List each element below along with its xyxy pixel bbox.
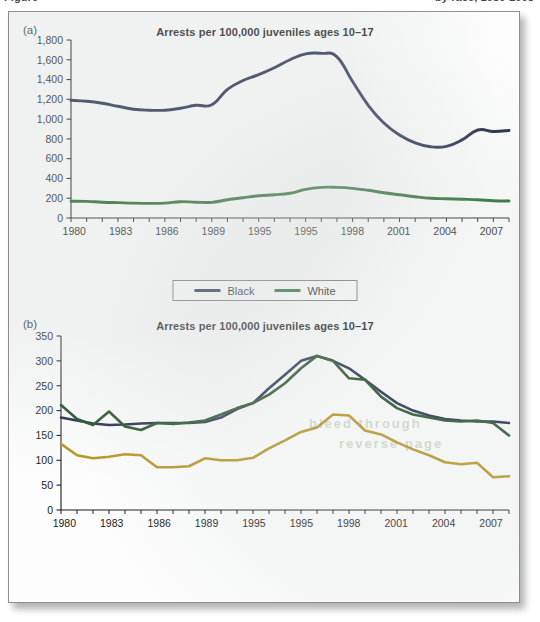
svg-text:1,000: 1,000 — [37, 113, 63, 125]
panel-b-svg: 0501001502002503003501980198319861989199… — [9, 312, 521, 560]
legend-label: Black — [227, 285, 254, 297]
panel-a-plot: 02004006008001,0001,2001,4001,6001,80019… — [9, 18, 521, 258]
svg-text:1980: 1980 — [63, 225, 87, 237]
legend-item-white[interactable]: White — [274, 285, 335, 297]
svg-text:1,400: 1,400 — [37, 73, 63, 85]
svg-text:1,200: 1,200 — [37, 93, 63, 105]
clipped-header-left: Figure — [4, 0, 38, 3]
clipped-header-right: by race, 1980-2008 — [435, 0, 534, 3]
svg-text:1989: 1989 — [195, 517, 219, 529]
svg-text:2001: 2001 — [384, 517, 408, 529]
legend-swatch-icon — [194, 289, 220, 292]
chart-panel-b: (b) Arrests per 100,000 juveniles ages 1… — [9, 312, 521, 604]
svg-text:50: 50 — [41, 479, 53, 491]
svg-text:2004: 2004 — [433, 225, 457, 237]
svg-text:1989: 1989 — [202, 225, 226, 237]
clipped-page-header: Figure by race, 1980-2008 — [0, 0, 540, 5]
svg-text:2001: 2001 — [387, 225, 411, 237]
svg-text:1995: 1995 — [290, 517, 314, 529]
chart-panel-a: (a) Arrests per 100,000 juveniles ages 1… — [9, 18, 521, 310]
svg-text:1998: 1998 — [337, 517, 361, 529]
svg-text:1986: 1986 — [155, 225, 179, 237]
svg-text:150: 150 — [35, 429, 53, 441]
svg-text:0: 0 — [57, 212, 63, 224]
svg-text:2007: 2007 — [480, 225, 504, 237]
svg-text:200: 200 — [45, 192, 63, 204]
svg-text:1995: 1995 — [248, 225, 272, 237]
panel-a-legend: BlackWhite — [172, 280, 357, 301]
legend-label: White — [307, 285, 335, 297]
svg-text:800: 800 — [45, 133, 63, 145]
svg-text:400: 400 — [45, 172, 63, 184]
panel-a-svg: 02004006008001,0001,2001,4001,6001,80019… — [9, 18, 521, 266]
svg-text:2007: 2007 — [479, 517, 503, 529]
svg-text:300: 300 — [35, 355, 53, 367]
panel-b-plot: 0501001502002503003501980198319861989199… — [9, 312, 521, 552]
svg-text:2004: 2004 — [432, 517, 456, 529]
svg-text:1998: 1998 — [341, 225, 365, 237]
svg-text:1980: 1980 — [53, 517, 77, 529]
svg-text:1983: 1983 — [100, 517, 124, 529]
svg-text:250: 250 — [35, 380, 53, 392]
svg-text:100: 100 — [35, 454, 53, 466]
svg-text:1,800: 1,800 — [37, 34, 63, 46]
legend-swatch-icon — [274, 289, 300, 292]
svg-text:1995: 1995 — [242, 517, 266, 529]
svg-text:350: 350 — [35, 330, 53, 342]
svg-text:1983: 1983 — [109, 225, 133, 237]
svg-text:1995: 1995 — [294, 225, 318, 237]
svg-text:200: 200 — [35, 404, 53, 416]
svg-text:0: 0 — [47, 504, 53, 516]
svg-text:1986: 1986 — [147, 517, 171, 529]
legend-item-black[interactable]: Black — [194, 285, 254, 297]
figure-page-panel: (a) Arrests per 100,000 juveniles ages 1… — [8, 11, 520, 603]
svg-text:1,600: 1,600 — [37, 54, 63, 66]
svg-text:600: 600 — [45, 152, 63, 164]
